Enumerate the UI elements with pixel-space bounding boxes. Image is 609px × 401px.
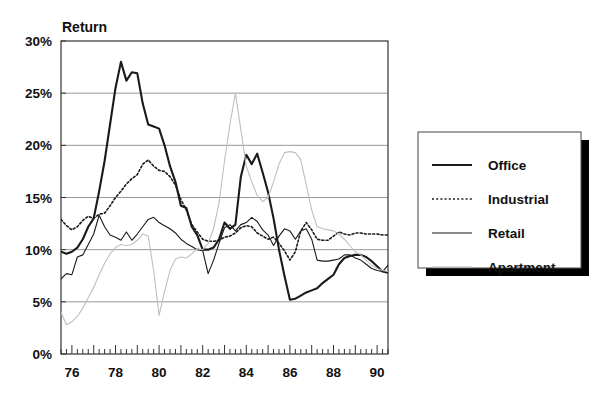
x-tick-label: 80 [152, 365, 167, 380]
x-tick-label: 82 [195, 365, 210, 380]
y-tick-label: 30% [25, 34, 52, 49]
chart-canvas: 0%5%10%15%20%25%30% 7678808284868890 Ret… [0, 0, 609, 401]
y-tick-label: 15% [25, 191, 52, 206]
y-tick-label: 20% [25, 138, 52, 153]
legend-label-office: Office [488, 158, 527, 173]
y-axis-title: Return [62, 19, 107, 35]
legend-label-industrial: Industrial [488, 192, 549, 207]
y-tick-label: 25% [25, 86, 52, 101]
x-tick-label: 88 [326, 365, 342, 380]
x-tick-label: 86 [282, 365, 298, 380]
y-tick-label: 5% [32, 295, 52, 310]
x-tick-label: 84 [239, 365, 255, 380]
x-tick-label: 90 [370, 365, 385, 380]
return-chart-figure: 0%5%10%15%20%25%30% 7678808284868890 Ret… [0, 0, 609, 401]
y-tick-label: 0% [32, 347, 52, 362]
x-tick-label: 78 [108, 365, 124, 380]
y-tick-label: 10% [25, 243, 52, 258]
legend: OfficeIndustrialRetailApartment [418, 132, 589, 276]
x-tick-label: 76 [64, 365, 80, 380]
legend-label-apartment: Apartment [488, 260, 556, 275]
legend-label-retail: Retail [488, 226, 525, 241]
